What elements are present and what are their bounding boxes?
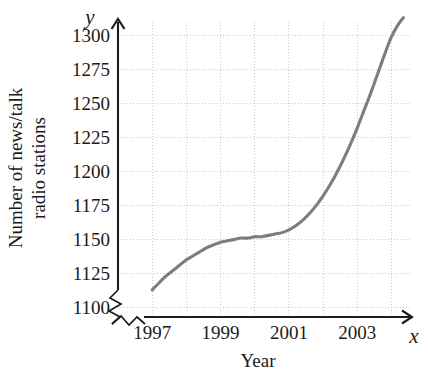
x-tick-label: 2001 — [270, 322, 308, 343]
x-axis-title: Year — [240, 350, 276, 371]
x-tick-label: 1997 — [133, 322, 171, 343]
x-tick-label: 1999 — [202, 322, 240, 343]
chart-figure: 110011251150117512001225125012751300 199… — [0, 0, 428, 381]
y-axis-title-line2: radio stations — [28, 117, 49, 219]
y-tick-label: 1175 — [73, 195, 110, 216]
y-tick-label: 1250 — [72, 93, 110, 114]
y-tick-labels: 110011251150117512001225125012751300 — [72, 25, 110, 318]
y-tick-label: 1275 — [72, 59, 110, 80]
chart-canvas: 110011251150117512001225125012751300 199… — [0, 0, 428, 381]
y-tick-label: 1225 — [72, 127, 110, 148]
y-tick-label: 1150 — [73, 229, 110, 250]
y-tick-label: 1125 — [73, 263, 110, 284]
y-axis-symbol: y — [83, 5, 95, 29]
x-axis-symbol: x — [408, 324, 419, 348]
y-axis-title-line1: Number of news/talk — [5, 87, 26, 248]
y-tick-label: 1100 — [73, 297, 110, 318]
y-tick-label: 1200 — [72, 161, 110, 182]
x-tick-label: 2003 — [338, 322, 376, 343]
